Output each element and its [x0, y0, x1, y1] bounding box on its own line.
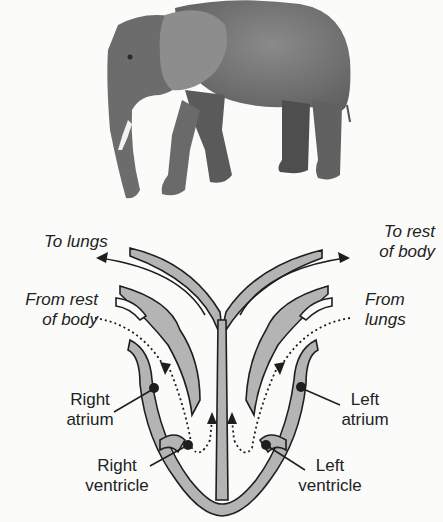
label-right-atrium: Right atrium [60, 390, 120, 430]
label-to-lungs: To lungs [44, 232, 108, 252]
left-ventricle-marker [261, 440, 271, 450]
label-from-rest-of-body: From rest of body [10, 290, 98, 330]
label-right-ventricle: Right ventricle [82, 456, 152, 496]
label-right-atrium-line2: atrium [60, 410, 120, 430]
label-right-ventricle-line2: ventricle [82, 476, 152, 496]
elephant-photo [0, 0, 443, 210]
label-left-atrium: Left atrium [335, 390, 395, 430]
label-from-rest-line2: of body [10, 310, 98, 330]
right-atrium-marker [149, 383, 159, 393]
label-to-rest-line1: To rest [340, 222, 435, 242]
label-right-atrium-line1: Right [60, 390, 120, 410]
right-ventricle-marker [183, 440, 193, 450]
left-atrium-marker [296, 382, 306, 392]
label-from-lungs-line1: From [365, 290, 406, 310]
label-left-ventricle-line1: Left [292, 456, 368, 476]
label-left-ventricle: Left ventricle [292, 456, 368, 496]
label-left-atrium-line2: atrium [335, 410, 395, 430]
label-left-ventricle-line2: ventricle [292, 476, 368, 496]
label-to-rest-of-body: To rest of body [340, 222, 435, 262]
label-from-lungs-line2: lungs [365, 310, 406, 330]
label-left-atrium-line1: Left [335, 390, 395, 410]
label-from-lungs: From lungs [365, 290, 406, 330]
label-right-ventricle-line1: Right [82, 456, 152, 476]
label-from-rest-line1: From rest [10, 290, 98, 310]
label-to-rest-line2: of body [340, 242, 435, 262]
heart-circulation-diagram: To lungs To rest of body From rest of bo… [0, 210, 443, 522]
